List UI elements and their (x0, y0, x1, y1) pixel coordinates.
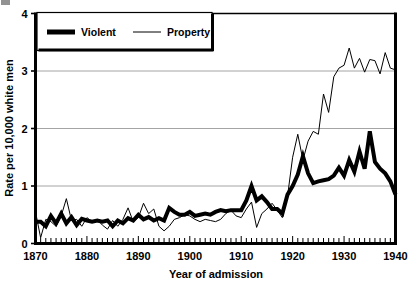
legend-box-shadow-right (211, 14, 214, 51)
x-tick-label-1880: 1880 (75, 250, 99, 262)
y-tick-label-4: 4 (21, 8, 28, 20)
x-axis-title: Year of admission (169, 268, 263, 280)
legend-label-property: Property (167, 26, 210, 38)
y-tick-label-0: 0 (21, 238, 27, 250)
legend-label-violent: Violent (81, 26, 116, 38)
x-tick-label-1930: 1930 (332, 250, 356, 262)
x-tick-label-1940: 1940 (383, 250, 407, 262)
chart-legend: Violent Property (37, 13, 214, 52)
x-tick-label-1910: 1910 (229, 250, 253, 262)
x-tick-label-1890: 1890 (126, 250, 150, 262)
x-tick-label-1900: 1900 (178, 250, 202, 262)
line-chart: 18701880189019001910192019301940 01234 Y… (0, 0, 412, 283)
x-tick-label-1870: 1870 (23, 250, 47, 262)
y-tick-label-2: 2 (21, 123, 27, 135)
legend-box-shadow-bottom (39, 49, 214, 52)
y-tick-label-3: 3 (21, 65, 27, 77)
x-tick-label-1920: 1920 (280, 250, 304, 262)
chart-figure: 18701880189019001910192019301940 01234 Y… (0, 0, 412, 283)
caption-crop-artifact (1, 0, 10, 5)
y-axis-title: Rate per 10,000 white men (3, 59, 15, 197)
y-tick-label-1: 1 (21, 180, 27, 192)
